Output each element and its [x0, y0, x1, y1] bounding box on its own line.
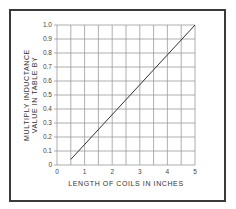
y-axis-ticks: 00.10.20.30.40.50.60.70.80.91.0 [43, 21, 57, 168]
y-tick-label: 1.0 [43, 21, 52, 28]
y-axis-title-line-1: MULTIPLY INDUCTANCE [23, 49, 30, 141]
y-tick-label: 0.9 [43, 35, 52, 42]
y-tick-label: 0.7 [43, 63, 52, 70]
x-tick-label: 2 [110, 168, 114, 175]
y-tick-label: 0.6 [43, 77, 52, 84]
y-tick-label: 0.2 [43, 133, 52, 140]
series-line [71, 25, 195, 159]
y-tick-label: 0.5 [43, 91, 52, 98]
line-chart: 00.10.20.30.40.50.60.70.80.91.0 012345 L… [0, 0, 236, 209]
y-tick-label: 0 [48, 161, 52, 168]
y-axis-title-line-2: VALUE IN TABLE BY [31, 57, 38, 133]
y-tick-label: 0.1 [43, 147, 52, 154]
data-series [71, 25, 195, 159]
x-axis-ticks: 012345 [55, 168, 197, 175]
x-tick-label: 3 [138, 168, 142, 175]
x-axis-title: LENGTH OF COILS IN INCHES [68, 180, 183, 187]
x-tick-label: 0 [55, 168, 59, 175]
x-tick-label: 1 [83, 168, 87, 175]
chart-grid [57, 25, 195, 165]
y-axis-title: MULTIPLY INDUCTANCE VALUE IN TABLE BY [23, 49, 38, 141]
y-tick-label: 0.3 [43, 119, 52, 126]
x-tick-label: 4 [166, 168, 170, 175]
y-tick-label: 0.8 [43, 49, 52, 56]
y-tick-label: 0.4 [43, 105, 52, 112]
x-tick-label: 5 [193, 168, 197, 175]
